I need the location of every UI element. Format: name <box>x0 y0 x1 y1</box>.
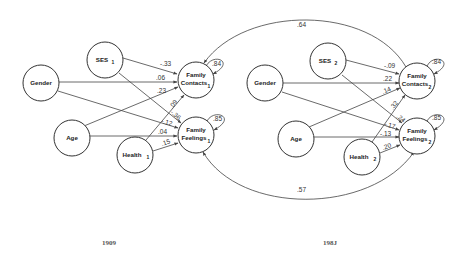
residual-contacts1: .84 <box>212 60 221 67</box>
node-health-2: Health 2 <box>344 139 380 175</box>
node-age-1-label: Age <box>66 134 78 141</box>
node-family-feelings-1-label2: Feelings <box>181 134 207 141</box>
stability-paths: .64 .57 <box>203 20 414 199</box>
node-health-1: Health 1 <box>117 137 153 173</box>
node-gender-1: Gender <box>23 65 59 101</box>
node-age-1: Age <box>54 120 90 156</box>
node-health-2-sub: 2 <box>374 156 377 162</box>
year-label-1: 1909 <box>102 239 117 247</box>
node-gender-2: Gender <box>247 65 283 101</box>
coef-health2-feelings2: .20 <box>381 141 392 151</box>
coef-ses1-contacts1: -.33 <box>160 60 172 67</box>
node-family-contacts-2-sub: 2 <box>429 84 432 90</box>
node-health-1-sub: 1 <box>147 154 150 160</box>
node-family-feelings-1-sub: 1 <box>208 138 211 144</box>
node-ses-1: SES 1 <box>87 42 123 78</box>
node-family-feelings-2-label2: Feelings <box>402 135 428 142</box>
residual-feelings1: .85 <box>213 115 222 122</box>
node-family-feelings-1-label1: Family <box>186 126 206 133</box>
coef-gender2-feelings2: -.17 <box>384 120 397 130</box>
node-ses-1-label: SES <box>96 56 108 63</box>
node-family-feelings-2-label1: Family <box>407 127 427 134</box>
node-ses-2-label: SES <box>319 57 331 64</box>
node-family-contacts-2-label1: Family <box>407 72 427 79</box>
node-family-feelings-2-sub: 2 <box>429 139 432 145</box>
coef-age2-feelings2: -.13 <box>380 130 392 137</box>
node-age-2: Age <box>278 121 314 157</box>
coef-ses2-contacts2: -.09 <box>384 62 396 69</box>
node-ses-2-sub: 2 <box>335 60 338 66</box>
coef-gender1-feelings1: -.12 <box>161 117 174 127</box>
year-label-2: 198J <box>323 239 338 247</box>
path-diagram: -.33 .06 .23 .09 -.36 -.12 .04 .15 .84 .… <box>0 0 457 255</box>
node-health-1-label: Health <box>123 151 142 158</box>
node-family-contacts-2-label2: Contacts <box>402 80 429 87</box>
residual-contacts2: .84 <box>432 58 441 65</box>
coef-age1-contacts1: .23 <box>157 87 166 94</box>
node-ses-2: SES 2 <box>310 43 346 79</box>
node-ses-1-sub: 1 <box>112 59 115 65</box>
node-age-2-label: Age <box>290 135 302 142</box>
node-health-2-label: Health <box>350 153 369 160</box>
residual-feelings2: .85 <box>432 114 441 121</box>
node-gender-2-label: Gender <box>254 79 276 86</box>
stability-coef-feelings: .57 <box>297 186 306 193</box>
panel-2-nodes: Gender SES 2 Age Health 2 Family Contact… <box>247 43 435 175</box>
coef-gender1-contacts1: .06 <box>156 74 165 81</box>
node-family-contacts-2: Family Contacts 2 <box>399 63 435 99</box>
node-family-contacts-1-sub: 1 <box>208 83 211 89</box>
coef-age1-feelings1: .04 <box>158 128 167 135</box>
coef-age2-contacts2: .14 <box>381 85 392 95</box>
stability-arc-feelings <box>203 152 414 199</box>
coef-health2-contacts2: .32 <box>388 99 399 111</box>
node-family-contacts-1-label1: Family <box>186 71 206 78</box>
coef-gender2-contacts2: .22 <box>383 75 392 82</box>
stability-coef-contacts: .64 <box>297 21 306 28</box>
node-family-feelings-1: Family Feelings 1 <box>178 117 214 153</box>
node-family-contacts-1-label2: Contacts <box>181 79 208 86</box>
node-gender-1-label: Gender <box>30 79 52 86</box>
panel-1-nodes: Gender SES 1 Age Health 1 Family Contact… <box>23 42 214 173</box>
node-family-contacts-1: Family Contacts 1 <box>178 62 214 98</box>
node-family-feelings-2: Family Feelings 2 <box>399 118 435 154</box>
